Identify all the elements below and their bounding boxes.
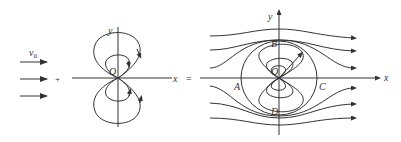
y-axis-label: y — [107, 25, 113, 36]
plus-operator: + — [55, 74, 60, 84]
point-label-a: A — [233, 81, 241, 92]
direction-arrow-icon — [128, 61, 129, 65]
cylinder-flow-panel — [200, 12, 378, 135]
external-streamline — [210, 40, 354, 51]
external-streamline — [210, 29, 354, 38]
y-axis-label: y — [267, 11, 273, 22]
point-label-b: B — [271, 38, 277, 49]
origin-label: O — [271, 66, 278, 77]
direction-arrow-icon — [140, 98, 141, 103]
x-axis-label: x — [172, 73, 178, 84]
x-axis-label: x — [383, 72, 389, 83]
point-label-c: C — [319, 81, 326, 92]
origin-label: O — [109, 66, 116, 77]
velocity-label: v0 — [29, 47, 37, 60]
external-streamline — [210, 118, 354, 125]
doublet-panel — [72, 27, 172, 127]
internal-streamline — [266, 78, 292, 98]
internal-streamline — [259, 44, 303, 78]
internal-streamline — [259, 78, 303, 112]
point-label-d: D — [270, 106, 279, 117]
direction-arrow-icon — [137, 49, 140, 56]
uniform-flow-panel — [20, 62, 47, 96]
internal-streamline — [271, 78, 285, 90]
equals-operator: = — [186, 73, 192, 84]
flow-superposition-diagram: v0 + y O x = — [0, 0, 401, 142]
